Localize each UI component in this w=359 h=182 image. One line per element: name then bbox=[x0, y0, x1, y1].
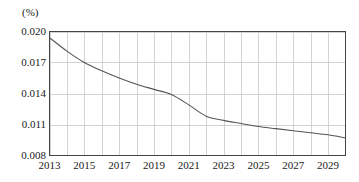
data-series-line bbox=[50, 38, 346, 138]
plot-area bbox=[0, 0, 359, 182]
chart-figure: (%) 0.0200.0170.0140.0110.008 2013201520… bbox=[0, 0, 359, 182]
vertical-gridlines bbox=[51, 32, 329, 156]
plot-border bbox=[50, 32, 346, 156]
